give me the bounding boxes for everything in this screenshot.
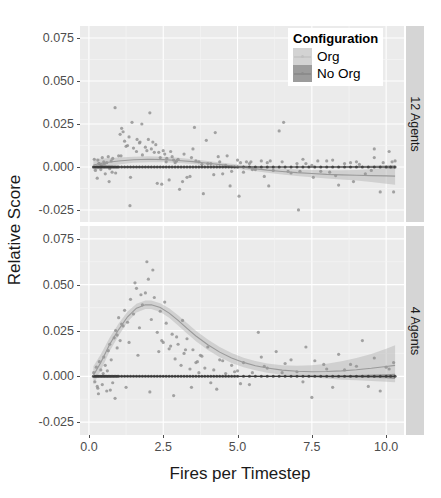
x-tick-label: 2.5 [155, 440, 172, 454]
legend-title: Configuration [293, 31, 378, 46]
facet-strip-label: 12 Agents [406, 26, 424, 222]
y-tick-label: -0.025 [18, 203, 74, 217]
y-tick-label: 0.075 [18, 232, 74, 246]
facet-strip-label: 4 Agents [406, 226, 424, 435]
legend-label: No Org [317, 66, 361, 81]
y-tick-label: 0.050 [18, 74, 74, 88]
x-tick-label: 5.0 [229, 440, 246, 454]
x-tick-label: 10.0 [374, 440, 398, 454]
legend-swatch-icon [293, 48, 312, 65]
x-tick-mark [238, 435, 239, 438]
strip-text: 12 Agents [408, 96, 422, 152]
x-tick-mark [163, 435, 164, 438]
legend-swatch-icon [293, 65, 312, 82]
x-tick-mark [386, 435, 387, 438]
y-tick-label: -0.025 [18, 415, 74, 429]
facet-panel-4-agents [80, 226, 404, 435]
x-tick-mark [312, 435, 313, 438]
y-tick-label: 0.025 [18, 324, 74, 338]
strip-text: 4 Agents [408, 306, 422, 355]
y-axis-title: Relative Score [2, 0, 28, 460]
legend-entries: OrgNo Org [293, 48, 378, 82]
x-tick-label: 0.0 [80, 440, 97, 454]
x-tick-label: 7.5 [303, 440, 320, 454]
y-tick-label: 0.025 [18, 117, 74, 131]
legend-entry-no-org[interactable]: No Org [293, 65, 378, 82]
legend: Configuration OrgNo Org [288, 28, 383, 86]
x-axis-title: Fires per Timestep [80, 462, 400, 486]
x-tick-mark [89, 435, 90, 438]
y-tick-label: 0.050 [18, 278, 74, 292]
y-tick-label: 0.000 [18, 160, 74, 174]
legend-entry-org[interactable]: Org [293, 48, 378, 65]
chart-container: Relative Score Fires per Timestep -0.025… [0, 0, 441, 498]
y-tick-label: 0.000 [18, 369, 74, 383]
legend-label: Org [317, 49, 340, 64]
y-tick-label: 0.075 [18, 31, 74, 45]
